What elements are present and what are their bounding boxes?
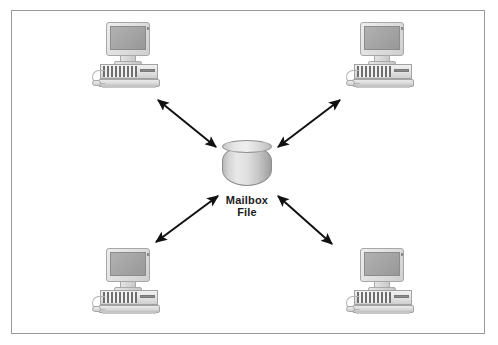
vent-slats-icon [357,66,391,77]
power-led-icon [401,27,403,30]
mailbox-file-label-line1: Mailbox [192,194,302,206]
diagram-canvas: Mailbox File [0,0,498,345]
mouse-icon [346,80,355,86]
power-led-icon [401,253,403,256]
workstation-top-left [92,22,164,94]
cylinder-top-ellipse [222,140,272,153]
mouse-icon [346,306,355,312]
vent-slats-icon [103,292,137,303]
screen-icon [364,26,400,50]
workstation-bottom-left [92,248,164,320]
power-led-icon [147,253,149,256]
keyboard-shadow [102,312,156,314]
keyboard-shadow [356,86,410,88]
arrow-top-right [278,100,340,147]
vent-slats-icon [357,292,391,303]
power-led-icon [147,27,149,30]
keyboard-shadow [356,312,410,314]
workstation-bottom-right [346,248,418,320]
screen-icon [110,252,146,276]
mouse-icon [92,306,101,312]
screen-icon [364,252,400,276]
mailbox-file-label: Mailbox File [192,194,302,218]
screen-icon [110,26,146,50]
workstation-top-right [346,22,418,94]
keyboard-shadow [102,86,156,88]
floppy-drive-slot-icon [140,295,155,298]
arrow-top-left [158,100,216,147]
vent-slats-icon [103,66,137,77]
mailbox-file-cylinder: Mailbox File [222,140,272,186]
floppy-drive-slot-icon [140,69,155,72]
mailbox-file-label-line2: File [192,206,302,218]
floppy-drive-slot-icon [394,295,409,298]
mouse-icon [92,80,101,86]
floppy-drive-slot-icon [394,69,409,72]
